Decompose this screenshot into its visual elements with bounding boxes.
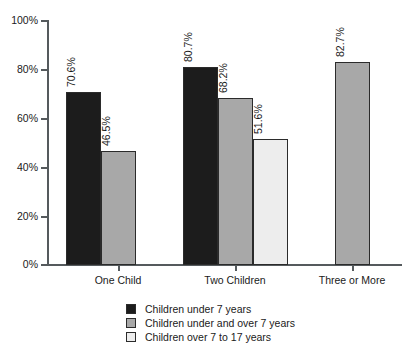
bar-two-children-under-7 xyxy=(183,67,218,265)
bar-two-children-over-7-to-17 xyxy=(253,139,288,265)
x-tick-one-child xyxy=(118,265,120,271)
x-label-three-or-more: Three or More xyxy=(302,274,402,286)
bar-group-two-children: 80.7% 68.2% 51.6% xyxy=(183,20,288,265)
bar-chart: 100% 80% 60% 40% 20% 0% 70.6% 46.5% 80.7… xyxy=(0,0,404,357)
legend-swatch-over-7-to-17 xyxy=(126,332,136,342)
legend-label-over-7-to-17: Children over 7 to 17 years xyxy=(145,332,271,343)
bar-one-child-under-7 xyxy=(66,92,101,265)
bar-one-child-under-and-over-7 xyxy=(101,151,136,265)
legend-label-under-7: Children under 7 years xyxy=(145,304,251,315)
bar-label-two-children-under-7: 80.7% xyxy=(183,32,193,62)
x-tick-three-or-more xyxy=(352,265,354,271)
bar-three-or-more-under-and-over-7 xyxy=(335,62,370,265)
x-label-two-children: Two Children xyxy=(185,274,285,286)
legend-swatch-under-and-over-7 xyxy=(126,318,136,328)
x-tick-two-children xyxy=(235,265,237,271)
bar-label-two-children-over-7-to-17: 51.6% xyxy=(253,104,263,134)
plot-area: 100% 80% 60% 40% 20% 0% 70.6% 46.5% 80.7… xyxy=(0,0,404,290)
bar-two-children-under-and-over-7 xyxy=(218,98,253,265)
bar-group-three-or-more: 82.7% xyxy=(300,20,404,265)
bar-label-two-children-under-and-over-7: 68.2% xyxy=(218,63,228,93)
bar-label-one-child-under-7: 70.6% xyxy=(66,57,76,87)
legend-label-under-and-over-7: Children under and over 7 years xyxy=(145,318,295,329)
bar-group-one-child: 70.6% 46.5% xyxy=(66,20,171,265)
bar-label-three-or-more-under-and-over-7: 82.7% xyxy=(335,27,345,57)
bar-label-one-child-under-and-over-7: 46.5% xyxy=(101,116,111,146)
bars-layer: 70.6% 46.5% 80.7% 68.2% 51.6% 82.7% xyxy=(0,0,404,265)
legend-item-under-and-over-7: Children under and over 7 years xyxy=(126,316,295,330)
chart-legend: Children under 7 years Children under an… xyxy=(126,302,295,344)
legend-item-under-7: Children under 7 years xyxy=(126,302,295,316)
legend-swatch-under-7 xyxy=(126,304,136,314)
x-label-one-child: One Child xyxy=(68,274,168,286)
legend-item-over-7-to-17: Children over 7 to 17 years xyxy=(126,330,295,344)
